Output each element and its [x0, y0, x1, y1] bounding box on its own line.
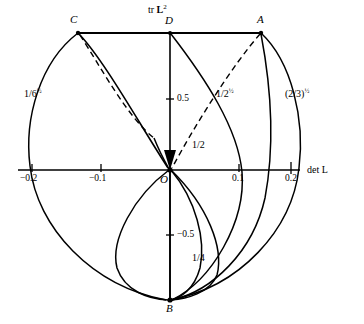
x-tick-label--0.2: −0.2 [20, 174, 37, 184]
y-tick-label-0.5: 0.5 [177, 94, 189, 104]
curve-label-right-outer: (2/3)½ [285, 88, 309, 99]
point-label-c: C [70, 14, 77, 25]
curve-label-mid-right-exp: ½ [229, 87, 234, 94]
origin-convergence-marker [164, 150, 176, 170]
y-tick-label--0.5: −0.5 [177, 230, 194, 240]
point-label-a: A [257, 14, 264, 25]
curve-origin-left-loop [116, 170, 169, 300]
point-marker-d [168, 31, 172, 35]
curve-label-inner-half: 1/2 [192, 140, 205, 150]
curve-label-mid-right: 1/2½ [216, 88, 234, 99]
y-axis-label-prefix: tr [148, 4, 157, 15]
x-tick-label-0.2: 0.2 [285, 174, 297, 184]
point-label-o: O [160, 174, 168, 185]
x-tick-label-0.1: 0.1 [232, 174, 244, 184]
curve-d-right-petal [171, 34, 242, 300]
curve-left-outer-petal [29, 33, 166, 300]
y-axis-label: tr L2 [148, 4, 167, 15]
curve-label-left-outer-exp: ½ [37, 87, 42, 94]
curve-label-left-outer: 1/6½ [24, 88, 42, 99]
curve-label-right-outer-exp: ½ [304, 87, 309, 94]
curve-label-inner-quarter: 1/4 [192, 253, 205, 263]
phase-diagram-figure [0, 0, 364, 324]
x-axis-label: det L [307, 165, 328, 175]
point-marker-c [76, 31, 80, 35]
x-tick-label--0.1: −0.1 [89, 174, 106, 184]
point-marker-a [259, 31, 263, 35]
curve-label-right-outer-base: (2/3) [285, 88, 304, 99]
point-label-b: B [166, 303, 173, 314]
point-label-d: D [165, 15, 173, 26]
y-axis-label-exp: 2 [163, 3, 167, 11]
curve-a-inner-petal [172, 34, 271, 300]
origin-point-dot [167, 167, 172, 172]
curve-label-mid-right-base: 1/2 [216, 88, 229, 99]
curve-label-left-outer-base: 1/6 [24, 88, 37, 99]
